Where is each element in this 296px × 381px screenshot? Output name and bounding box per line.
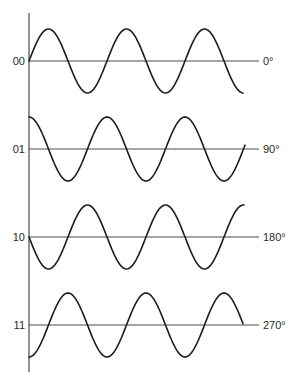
phase-label-90: 90° [263,143,280,155]
bit-label-01: 01 [13,143,25,155]
psk-waveform-diagram: 00 0° 01 90° 10 180° 11 270° [0,0,296,381]
phase-label-270: 270° [263,319,286,331]
row-01: 01 90° [13,117,280,181]
row-11: 11 270° [14,293,286,357]
bit-label-10: 10 [13,231,25,243]
bit-label-00: 00 [13,55,25,67]
phase-label-180: 180° [263,231,286,243]
phase-label-0: 0° [263,55,274,67]
row-10: 10 180° [13,205,286,269]
row-00: 00 0° [13,29,274,93]
bit-label-11: 11 [14,319,25,331]
